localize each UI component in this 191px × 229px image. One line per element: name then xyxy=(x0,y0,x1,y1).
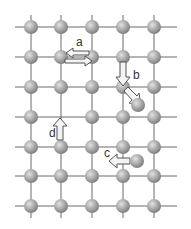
lattice-atom xyxy=(116,169,130,183)
lattice-atom xyxy=(147,80,161,94)
lattice-atom xyxy=(85,199,99,213)
label-b: b xyxy=(133,68,140,82)
lattice-atom xyxy=(24,50,38,64)
lattice-atom xyxy=(116,20,130,34)
lattice-atom xyxy=(24,80,38,94)
lattice-diffusion-diagram: a b c d xyxy=(0,0,191,229)
lattice-atom xyxy=(54,199,68,213)
label-a: a xyxy=(76,35,83,49)
lattice-atom xyxy=(147,140,161,154)
lattice-atom xyxy=(147,169,161,183)
label-d: d xyxy=(49,126,56,140)
lattice-atom xyxy=(24,169,38,183)
lattice-atom xyxy=(85,110,99,124)
lattice-atom xyxy=(54,169,68,183)
lattice-atom xyxy=(147,199,161,213)
lattice-atom xyxy=(54,140,68,154)
lattice-atom xyxy=(147,110,161,124)
lattice-atom xyxy=(116,199,130,213)
lattice-atom xyxy=(24,199,38,213)
adatoms xyxy=(130,98,145,168)
label-c: c xyxy=(104,146,110,160)
lattice-atom xyxy=(85,20,99,34)
lattice-atom xyxy=(85,140,99,154)
lattice-atom xyxy=(54,20,68,34)
adatom-c xyxy=(130,154,144,168)
lattice-atom xyxy=(147,50,161,64)
lattice-atom xyxy=(54,80,68,94)
adatom-b xyxy=(131,98,145,112)
lattice-atom xyxy=(85,169,99,183)
lattice-atom xyxy=(24,140,38,154)
lattice-atom xyxy=(116,140,130,154)
lattice-atom xyxy=(147,20,161,34)
lattice-atom xyxy=(116,110,130,124)
lattice-atom xyxy=(85,80,99,94)
arrow-c-hop-icon xyxy=(109,154,130,168)
lattice-atom xyxy=(24,110,38,124)
lattice-atom xyxy=(24,20,38,34)
